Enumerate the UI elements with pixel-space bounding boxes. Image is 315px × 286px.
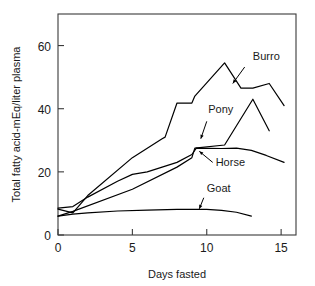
plot-frame [58,14,296,235]
x-tick-label: 5 [129,241,136,255]
line-chart: 0510150204060 BurroPonyHorseGoat Days fa… [0,0,315,286]
x-axis-title: Days fasted [148,268,206,280]
y-tick-label: 40 [38,103,52,117]
x-tick-label: 15 [274,241,288,255]
series-label-goat: Goat [207,182,231,194]
axis-ticks [58,46,281,235]
y-tick-label: 60 [38,40,52,54]
y-tick-label: 0 [44,229,51,243]
series-label-burro: Burro [253,50,280,62]
x-tick-label: 10 [200,241,214,255]
series-line-burro [58,63,284,213]
plot-border [58,14,296,235]
chart-figure: 0510150204060 BurroPonyHorseGoat Days fa… [0,0,315,286]
y-tick-label: 20 [38,166,52,180]
x-tick-label: 0 [55,241,62,255]
axis-tick-labels: 0510150204060 [38,40,288,255]
pointer-arrowhead-pony [200,135,203,139]
series-label-horse: Horse [216,156,245,168]
series-annotations: BurroPonyHorseGoat [199,50,280,209]
series-line-horse [58,148,284,208]
y-axis-title: Total fatty acid-mEq/liter plasma [10,46,22,203]
series-label-pony: Pony [208,103,234,115]
series-line-goat [58,209,251,216]
data-series-lines [58,63,284,216]
